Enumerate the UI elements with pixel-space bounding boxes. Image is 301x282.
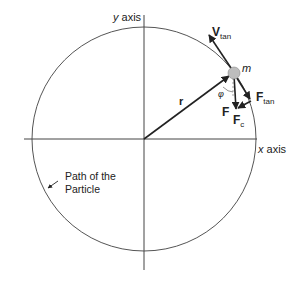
f-c-label-sub: c	[240, 120, 244, 129]
path-label-line2: Particle	[65, 183, 100, 195]
r-vector	[144, 76, 229, 139]
f-c-vector	[238, 101, 251, 108]
f-tan-label-main: F	[256, 90, 263, 104]
x-axis-var: x	[257, 143, 264, 155]
mass-label: m	[242, 62, 251, 74]
f-c-label: Fc	[233, 113, 244, 129]
path-label-arrow	[48, 181, 58, 188]
v-tan-label-sub: tan	[220, 32, 231, 41]
f-c-label-main: F	[233, 113, 240, 127]
f-label: F	[222, 105, 229, 119]
r-label: r	[179, 95, 184, 107]
f-vector	[234, 75, 236, 109]
path-label-line1: Path of the	[65, 170, 116, 182]
x-axis-word: axis	[267, 143, 287, 155]
f-tan-label: Ftan	[256, 90, 274, 106]
f-tan-label-sub: tan	[263, 97, 274, 106]
y-axis-label: y axis	[112, 11, 142, 23]
phi-angle-arc	[223, 87, 233, 92]
v-tan-label-main: V	[212, 25, 220, 39]
y-axis-var: y	[112, 11, 120, 23]
phi-label: φ	[218, 89, 224, 99]
x-axis-label: x axis	[257, 143, 287, 155]
f-tan-vector	[235, 75, 250, 99]
y-axis-word: axis	[122, 11, 142, 23]
v-tan-label: Vtan	[212, 25, 231, 41]
particle-mass	[228, 67, 240, 79]
circular-motion-diagram: y axis x axis r Vtan φ F Ftan Fc m Path …	[0, 0, 301, 282]
